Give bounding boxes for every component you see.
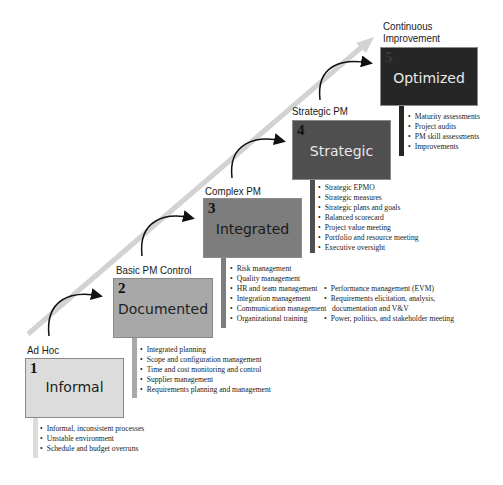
list-item: Organizational training [230, 314, 326, 324]
level-5-title: Optimized [381, 70, 477, 86]
level-5-post [399, 106, 404, 156]
level-1-bullets: Informal, inconsistent processes Unstabl… [40, 424, 144, 454]
list-item: Scope and configuration management [140, 355, 271, 365]
level-2-number: 2 [118, 280, 126, 297]
level-4-box: 4 Strategic [292, 120, 391, 180]
list-item: Balanced scorecard [318, 213, 419, 223]
list-item: Strategic plans and goals [318, 203, 419, 213]
list-item: Supplier management [140, 375, 271, 385]
stage-label-strategic-pm: Strategic PM [292, 105, 348, 117]
list-item: Quality management [230, 274, 326, 284]
stage-label-ad-hoc: Ad Hoc [27, 344, 59, 356]
level-2-post [132, 338, 137, 398]
level-5-bullets: Maturity assessments Project audits PM s… [408, 112, 480, 152]
level-3-extra-bullets: Performance management (EVM) Requirement… [324, 284, 454, 324]
curved-arrow-1-to-2 [49, 294, 100, 336]
list-item: Schedule and budget overruns [40, 444, 144, 454]
stage-label-line-1: Continuous [383, 20, 440, 32]
level-4-bullets: Strategic EPMO Strategic measures Strate… [318, 183, 419, 253]
level-3-title: Integrated [204, 221, 301, 237]
level-3-bullets: Risk management Quality management HR an… [230, 264, 326, 324]
level-5-box: 5 Optimized [380, 47, 478, 106]
stage-label-line-2: Improvement [383, 32, 440, 44]
list-item: PM skill assessments [408, 132, 480, 142]
level-1-post [33, 418, 38, 458]
list-item: Executive oversight [318, 243, 419, 253]
stage-label-complex-pm: Complex PM [205, 185, 261, 197]
list-item: Strategic measures [318, 193, 419, 203]
list-item: Maturity assessments [408, 112, 480, 122]
level-5-number: 5 [385, 49, 393, 66]
curved-arrow-4-to-5 [320, 62, 370, 100]
stage-label-basic-pm-control: Basic PM Control [116, 264, 192, 276]
list-item: Communication management [230, 304, 326, 314]
level-3-box: 3 Integrated [203, 198, 302, 258]
level-1-box: 1 Informal [25, 358, 124, 418]
list-item: documentation and V&V [324, 304, 454, 314]
list-item: Improvements [408, 142, 480, 152]
level-1-number: 1 [30, 360, 38, 377]
level-3-post [221, 258, 226, 328]
list-item: Informal, inconsistent processes [40, 424, 144, 434]
list-item: Project audits [408, 122, 480, 132]
list-item: Strategic EPMO [318, 183, 419, 193]
level-4-number: 4 [297, 122, 305, 139]
level-1-title: Informal [26, 379, 123, 395]
stage-label-continuous-improvement: Continuous Improvement [383, 20, 440, 44]
level-4-post [310, 180, 315, 253]
list-item: Portfolio and resource meeting [318, 233, 419, 243]
list-item: Performance management (EVM) [324, 284, 454, 294]
list-item: Risk management [230, 264, 326, 274]
list-item: Integration management [230, 294, 326, 304]
level-2-bullets: Integrated planning Scope and configurat… [140, 345, 271, 395]
list-item: Power, politics, and stakeholder meeting [324, 314, 454, 324]
curved-arrow-3-to-4 [232, 139, 283, 178]
list-item: Time and cost monitoring and control [140, 365, 271, 375]
list-item: Unstable environment [40, 434, 144, 444]
list-item: Requirements elicitation, analysis, [324, 294, 454, 304]
list-item: HR and team management [230, 284, 326, 294]
level-2-box: 2 Documented [113, 278, 213, 338]
list-item: Requirements planning and management [140, 385, 271, 395]
level-3-number: 3 [208, 200, 216, 217]
list-item: Project value meeting [318, 223, 419, 233]
level-4-title: Strategic [293, 143, 390, 159]
curved-arrow-2-to-3 [142, 216, 192, 256]
level-2-title: Documented [114, 301, 212, 317]
list-item: Integrated planning [140, 345, 271, 355]
